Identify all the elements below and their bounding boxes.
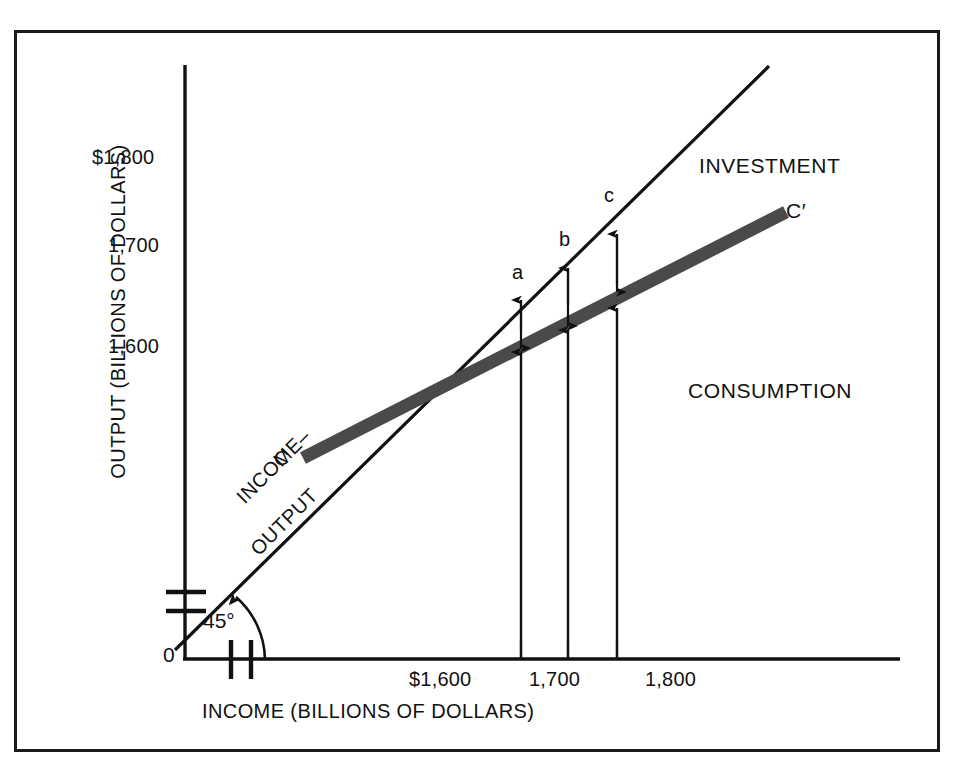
gap-label-a: a [512,261,523,284]
gap-label-b: b [559,228,570,251]
consumption-region-label: CONSUMPTION [688,379,852,403]
y-axis-title: OUTPUT (BILLIONS OF DOLLARS) [107,142,130,482]
consumption-line-start-label: C [274,446,290,470]
consumption-schedule-line [303,212,786,458]
x-axis-title: INCOME (BILLIONS OF DOLLARS) [202,700,534,723]
angle-45-label: 45° [203,609,235,633]
consumption-line-end-label: C′ [786,199,806,223]
x-tick-label-1600: $1,600 [409,668,471,691]
x-tick-label-1700: 1,700 [529,668,580,691]
investment-region-label: INVESTMENT [699,154,840,178]
gap-label-c: c [604,184,614,207]
figure-root: $1,800 1,700 1,600 $1,600 1,700 1,800 0 … [0,0,958,783]
origin-label: 0 [163,643,175,667]
income-output-line [175,66,769,650]
x-tick-label-1800: 1,800 [645,668,696,691]
